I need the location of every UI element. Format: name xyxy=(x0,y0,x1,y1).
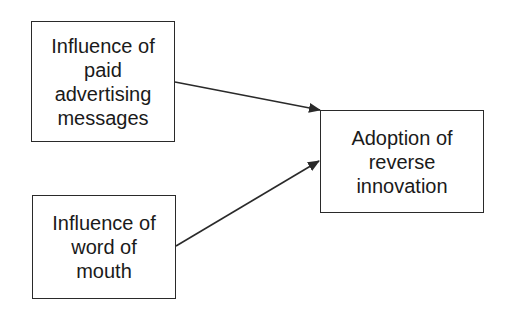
diagram-canvas: Influence of paid advertising messages I… xyxy=(0,0,509,312)
node-word-of-mouth: Influence of word of mouth xyxy=(32,195,176,299)
node-label-line: word of xyxy=(71,235,137,259)
node-label-line: Influence of xyxy=(51,34,154,58)
node-label-line: messages xyxy=(57,106,148,130)
node-label-line: reverse xyxy=(369,150,436,174)
node-label-line: paid xyxy=(84,58,122,82)
node-label-line: innovation xyxy=(356,174,447,198)
node-paid-advertising: Influence of paid advertising messages xyxy=(31,21,175,142)
edge-paid-advertising-to-adoption xyxy=(175,82,320,110)
node-label-line: advertising xyxy=(55,82,152,106)
edge-word-of-mouth-to-adoption xyxy=(176,161,319,246)
node-label-line: Adoption of xyxy=(351,126,452,150)
node-label-line: mouth xyxy=(76,259,132,283)
node-label-line: Influence of xyxy=(52,211,155,235)
node-adoption: Adoption of reverse innovation xyxy=(320,110,484,213)
